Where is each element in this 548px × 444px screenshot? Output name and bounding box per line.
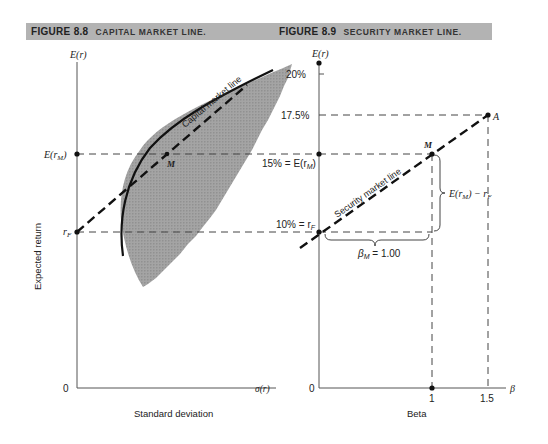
label-10-rf: 10% = rF [276,219,316,231]
origin-label: 0 [309,383,315,394]
erm-label: E(rM) [43,149,67,162]
tick-label-17-5: 17.5% [281,110,309,121]
market-portfolio-point [165,152,170,157]
risk-premium-brace [434,155,445,231]
market-portfolio-label: M [423,140,433,150]
rf-point [316,229,321,234]
erm-axis-point [74,151,79,156]
x-axis-end-label: β [509,383,515,394]
x-axis-title: Beta [407,408,427,419]
capital-market-line-chart: E(r) E(rM) rF M Capital market line Expe… [32,49,320,419]
sml-label: Security market line [332,166,402,220]
tick-label-beta-1: 1 [429,393,435,404]
tick-label-beta-1-5: 1.5 [480,393,494,404]
rf-point [74,229,79,234]
market-portfolio-label: M [166,159,176,169]
security-a-label: A [492,111,500,122]
erm-axis-point [316,151,321,156]
x-axis-end-label: σ(r) [255,384,270,395]
feasible-set-region [121,64,292,287]
top-axis-point [316,60,321,65]
security-market-line [300,115,488,248]
risk-premium-label: E(rM) − rF [448,188,492,201]
security-a-point [485,112,490,117]
y-axis-label: E(r) [69,49,87,61]
label-15-erm: 15% = E(rM) [262,158,316,170]
beta-brace [325,234,429,246]
beta-1-point [429,385,434,390]
y-axis-label: E(r) [311,48,329,60]
origin-label: 0 [63,383,69,394]
market-portfolio-point [429,151,434,156]
security-market-line-chart: E(r) 20% 17.5% 15% = E(rM) 10% = rF M A … [262,48,515,419]
y-axis-title: Expected return [32,223,43,290]
x-axis-title: Standard deviation [134,408,213,419]
rf-label: rF [63,226,72,239]
figures-canvas: E(r) E(rM) rF M Capital market line Expe… [0,0,548,444]
tick-label-20: 20% [286,69,306,80]
beta-m-label: βM = 1.00 [357,248,401,260]
